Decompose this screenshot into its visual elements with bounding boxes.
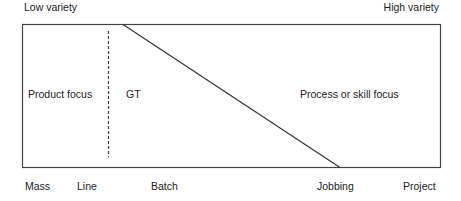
diagram-canvas	[0, 0, 461, 201]
product-focus-label: Product focus	[28, 89, 92, 100]
process-focus-label: Process or skill focus	[300, 89, 399, 100]
process-type-project: Project	[403, 181, 436, 192]
high-variety-label: High variety	[384, 2, 439, 13]
low-variety-label: Low variety	[24, 2, 77, 13]
process-type-line: Line	[77, 181, 97, 192]
process-type-mass: Mass	[25, 181, 50, 192]
process-type-batch: Batch	[151, 181, 178, 192]
process-type-jobbing: Jobbing	[317, 181, 354, 192]
gt-label: GT	[126, 89, 141, 100]
